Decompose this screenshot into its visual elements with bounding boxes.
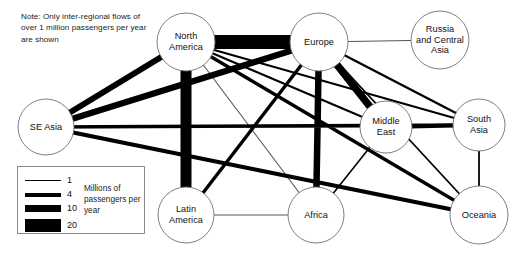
legend-caption: Millions of passengers per year [84, 183, 144, 216]
legend-value-10: 10 [67, 204, 77, 213]
legend-value-20: 20 [67, 221, 77, 230]
diagram-page: NorthAmericaEuropeRussiaand CentralAsiaS… [0, 0, 515, 255]
legend: Millions of passengers per year 141020 [17, 166, 145, 234]
region-node-se_asia[interactable] [18, 99, 74, 155]
region-node-africa[interactable] [288, 187, 344, 243]
legend-swatch-1 [25, 180, 61, 181]
legend-entry-1: 1 [25, 176, 72, 185]
legend-entry-10: 10 [25, 204, 77, 213]
region-node-south_asia[interactable] [453, 99, 505, 151]
legend-value-1: 1 [67, 176, 72, 185]
region-node-europe[interactable] [290, 13, 348, 71]
legend-swatch-20 [25, 219, 61, 232]
legend-swatch-10 [25, 205, 61, 212]
legend-entry-20: 20 [25, 219, 77, 232]
diagram-note: Note: Only inter-regional flows of over … [21, 11, 153, 45]
region-node-oceania[interactable] [450, 186, 508, 244]
legend-swatch-4 [25, 193, 61, 197]
region-node-latin_america[interactable] [158, 187, 214, 243]
region-node-north_america[interactable] [157, 13, 215, 71]
region-node-russia[interactable] [411, 11, 469, 69]
region-node-middle_east[interactable] [360, 101, 412, 153]
legend-entry-4: 4 [25, 190, 72, 199]
legend-value-4: 4 [67, 190, 72, 199]
